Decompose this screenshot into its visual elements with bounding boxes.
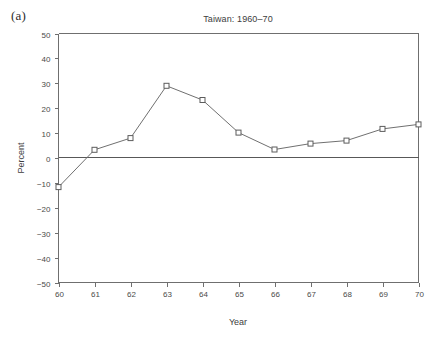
x-axis-tick-label: 68 [343,290,352,299]
x-axis-tick-label: 70 [415,290,424,299]
y-axis-tick-label: −10 [37,180,51,189]
x-axis-tick-labels: 6061626364656667686970 [55,290,424,299]
x-axis-tick-label: 66 [271,290,280,299]
y-axis-title: Percent [16,142,26,174]
data-point-marker [416,122,421,127]
data-point-marker [236,130,241,135]
data-series-line [59,86,419,187]
x-axis-ticks [60,283,420,287]
y-axis-ticks [55,35,59,284]
y-axis-tick-label: 0 [46,155,51,164]
x-axis-tick-label: 61 [91,290,100,299]
line-chart-svg: 50403020100−10−20−30−40−50 6061626364656… [0,0,438,340]
y-axis-tick-label: 30 [42,80,51,89]
x-axis-tick-label: 60 [55,290,64,299]
x-axis-tick-label: 62 [127,290,136,299]
x-axis-tick-label: 67 [307,290,316,299]
y-axis-tick-label: −30 [37,230,51,239]
x-axis-tick-label: 63 [163,290,172,299]
data-point-marker [272,147,277,152]
data-point-marker [128,136,133,141]
data-point-marker [92,147,97,152]
data-point-markers [56,83,421,189]
y-axis-tick-label: −50 [37,280,51,289]
y-axis-tick-label: −20 [37,205,51,214]
x-axis-tick-label: 69 [379,290,388,299]
y-axis-tick-label: 20 [42,105,51,114]
data-point-marker [380,126,385,131]
data-point-marker [344,138,349,143]
x-axis-tick-label: 64 [199,290,208,299]
data-point-marker [164,83,169,88]
y-axis-tick-label: 10 [42,130,51,139]
figure-panel: (a) Taiwan: 1960–70 50403020100−10−20−30… [0,0,438,340]
x-axis-tick-label: 65 [235,290,244,299]
y-axis-tick-label: −40 [37,255,51,264]
data-point-marker [56,185,61,190]
data-point-marker [200,98,205,103]
y-axis-tick-label: 40 [42,55,51,64]
x-axis-title: Year [229,317,247,327]
y-axis-tick-labels: 50403020100−10−20−30−40−50 [37,31,51,289]
y-axis-tick-label: 50 [42,31,51,40]
data-point-marker [308,141,313,146]
